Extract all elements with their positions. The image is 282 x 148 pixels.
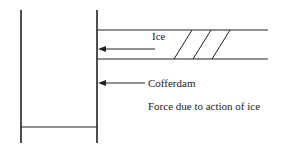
ice-label: Ice bbox=[152, 31, 165, 42]
caption-label: Force due to action of ice bbox=[148, 101, 260, 112]
ice-force-arrowhead-icon bbox=[98, 46, 106, 52]
cofferdam-arrowhead-icon bbox=[98, 80, 106, 86]
cofferdam-ice-diagram bbox=[0, 0, 282, 148]
ice-hatch-3 bbox=[212, 30, 230, 59]
ice-hatch-1 bbox=[174, 30, 192, 59]
cofferdam-label: Cofferdam bbox=[148, 78, 195, 89]
ice-hatch-2 bbox=[193, 30, 211, 59]
